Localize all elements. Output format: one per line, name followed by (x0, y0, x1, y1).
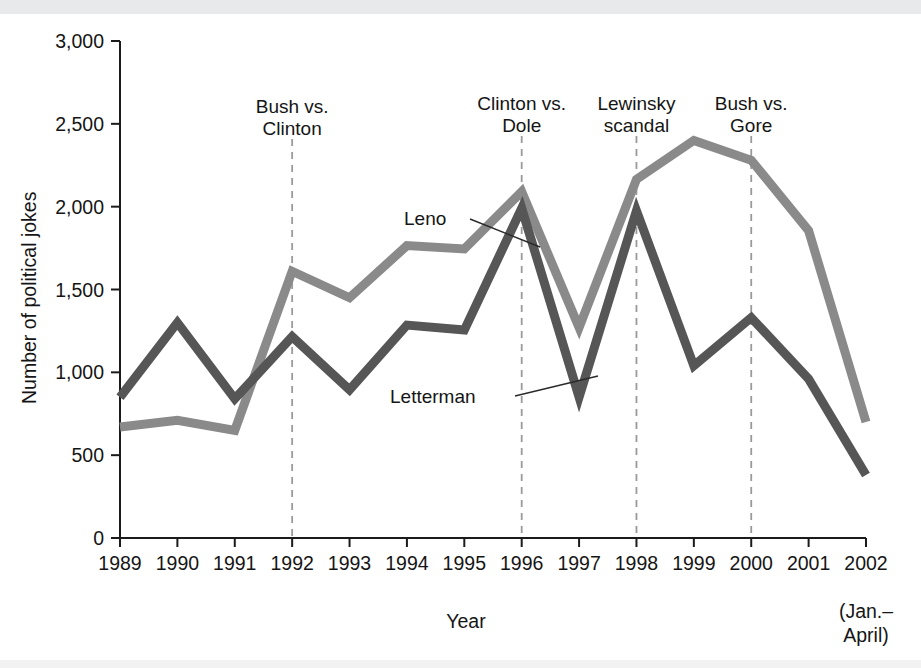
x-tick-label: 1989 (98, 552, 141, 574)
y-tick-label: 2,500 (55, 113, 104, 135)
x-tick-label: 1996 (500, 552, 543, 574)
x-tick-label: 1991 (213, 552, 256, 574)
y-axis-title: Number of political jokes (18, 191, 40, 404)
x-axis-note-line1: (Jan.– (839, 600, 893, 622)
x-tick-label: 2002 (844, 552, 887, 574)
x-tick-label: 1990 (156, 552, 200, 574)
y-tick-label: 500 (71, 444, 104, 466)
x-tick-label: 1993 (328, 552, 371, 574)
y-axis-ticks: 05001,0001,5002,0002,5003,000 (55, 30, 120, 549)
event-marker-labels: Bush vs.ClintonClinton vs.DoleLewinskysc… (256, 93, 788, 139)
series-line-letterman (120, 208, 866, 475)
x-axis-ticks: 1989199019911992199319941995199619971998… (98, 538, 887, 574)
bottom-banner-bar (0, 660, 921, 668)
event-label-bush-vs-gore-line1: Bush vs. (715, 93, 788, 114)
x-axis-note-line2: April) (843, 624, 889, 646)
page-root: Number of political jokes 05001,0001,500… (0, 0, 921, 668)
series-label-leno: Leno (404, 208, 446, 229)
y-tick-label: 2,000 (55, 196, 104, 218)
chart-canvas: Number of political jokes 05001,0001,500… (0, 14, 921, 646)
line-chart-figure: Number of political jokes 05001,0001,500… (0, 14, 921, 646)
x-tick-label: 1998 (615, 552, 658, 574)
event-label-bush-vs-clinton-line2: Clinton (263, 118, 322, 139)
y-tick-label: 0 (93, 527, 104, 549)
y-tick-label: 1,000 (55, 361, 104, 383)
y-tick-label: 1,500 (55, 279, 104, 301)
x-tick-label: 2001 (787, 552, 830, 574)
x-tick-label: 1999 (672, 552, 715, 574)
series-label-letterman: Letterman (390, 386, 476, 407)
event-label-clinton-vs-dole-line1: Clinton vs. (477, 93, 566, 114)
event-label-bush-vs-clinton-line1: Bush vs. (256, 96, 329, 117)
event-label-clinton-vs-dole-line2: Dole (502, 115, 541, 136)
event-label-bush-vs-gore-line2: Gore (730, 115, 772, 136)
x-tick-label: 1992 (270, 552, 313, 574)
x-tick-label: 1997 (557, 552, 600, 574)
x-axis-title: Year (446, 610, 486, 632)
x-tick-label: 1994 (385, 552, 429, 574)
x-tick-label: 1995 (443, 552, 487, 574)
event-label-lewinsky-scandal-line1: Lewinsky (597, 93, 676, 114)
y-tick-label: 3,000 (55, 30, 104, 52)
event-label-lewinsky-scandal-line2: scandal (604, 115, 670, 136)
series-line-leno (120, 140, 866, 430)
top-banner-bar (0, 0, 921, 14)
x-tick-label: 2000 (730, 552, 774, 574)
